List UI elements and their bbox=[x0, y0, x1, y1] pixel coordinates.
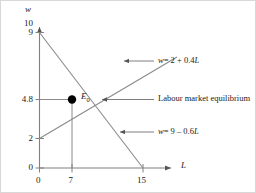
demand-equation-variable-l: L bbox=[194, 126, 199, 136]
x-tick-label-15: 15 bbox=[137, 176, 146, 185]
supply-equation-callout: w= 2 + 0.4L bbox=[158, 56, 199, 65]
y-axis-label: w bbox=[25, 5, 31, 14]
y-tick-label-9: 9 bbox=[9, 28, 33, 37]
x-axis-label: L bbox=[181, 161, 186, 170]
y-tick-label-2: 2 bbox=[9, 134, 33, 143]
labour-demand-line bbox=[40, 33, 144, 169]
demand-equation-callout: w= 9 – 0.6L bbox=[158, 127, 199, 136]
equilibrium-point-marker bbox=[68, 95, 76, 103]
supply-equation-body: = 2 + 0.4 bbox=[164, 55, 195, 65]
y-tick-label-4-8: 4.8 bbox=[3, 95, 33, 104]
equilibrium-point-label: E0 bbox=[81, 92, 90, 103]
x-tick-label-0: 0 bbox=[36, 176, 41, 185]
labour-supply-line bbox=[40, 57, 178, 139]
supply-demand-figure: w L 10 9 4.8 2 0 0 7 15 E0 w= 2 + 0.4L L… bbox=[0, 0, 256, 193]
equilibrium-callout-text: Labour market equilibrium bbox=[158, 94, 250, 103]
y-tick-label-0: 0 bbox=[9, 163, 33, 172]
equilibrium-point-subscript: 0 bbox=[87, 96, 90, 103]
demand-equation-body: = 9 – 0.6 bbox=[164, 126, 194, 136]
supply-equation-variable-l: L bbox=[195, 55, 200, 65]
x-tick-label-7: 7 bbox=[69, 176, 74, 185]
